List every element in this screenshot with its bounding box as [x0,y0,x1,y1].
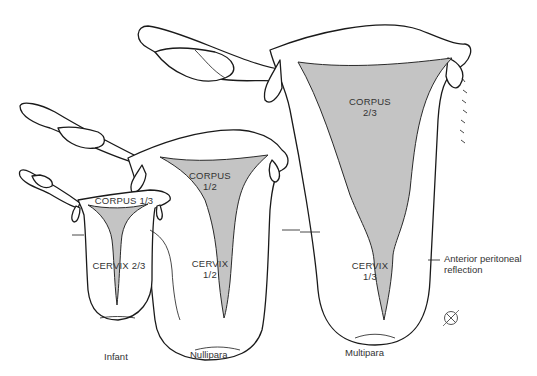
infant-cervix-label: CERVIX 2/3 [84,260,154,271]
female-symbol-icon [443,310,459,326]
multipara-cervix-label: CERVIX 1/3 [345,260,395,282]
infant-corpus-label: CORPUS 1/3 [84,195,164,206]
nullipara-cervix-label: CERVIX 1/2 [185,258,235,280]
caption-nullipara: Nullipara [190,349,228,360]
caption-multipara: Multipara [345,347,384,358]
multipara-corpus-label: CORPUS 2/3 [345,96,395,118]
nullipara-corpus-label: CORPUS 1/2 [185,170,235,192]
caption-infant: Infant [104,351,128,362]
nullipara-uterus [20,103,300,360]
anterior-peritoneal-reflection-annotation: Anterior peritoneal reflection [444,253,522,275]
uterus-diagram [0,0,537,376]
